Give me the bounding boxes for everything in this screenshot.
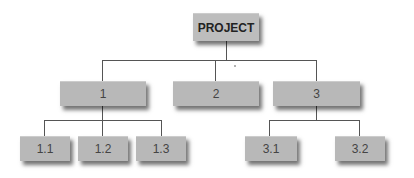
connector-3-horizontal: [269, 120, 360, 121]
connector-to-1: [102, 60, 103, 81]
node-3-2: 3.2: [335, 136, 385, 161]
connector-to-1-2: [102, 120, 103, 136]
node-1-1: 1.1: [20, 136, 70, 161]
connector-3-down: [316, 105, 317, 120]
stray-dot: [234, 65, 236, 67]
connector-to-2: [215, 60, 216, 81]
connector-1-horizontal: [44, 120, 162, 121]
node-2: 2: [173, 81, 259, 106]
connector-to-3-2: [359, 120, 360, 136]
node-1-2: 1.2: [78, 136, 128, 161]
node-project: PROJECT: [193, 13, 259, 41]
node-3-1: 3.1: [245, 136, 297, 161]
connector-to-3-1: [269, 120, 270, 136]
connector-1-down: [102, 105, 103, 120]
node-1: 1: [60, 81, 146, 106]
node-1-3: 1.3: [136, 136, 186, 161]
connector-level1-horizontal: [102, 60, 317, 61]
connector-root-down: [226, 40, 227, 60]
connector-to-3: [316, 60, 317, 81]
connector-to-1-1: [44, 120, 45, 136]
connector-to-1-3: [161, 120, 162, 136]
node-3: 3: [273, 81, 360, 106]
